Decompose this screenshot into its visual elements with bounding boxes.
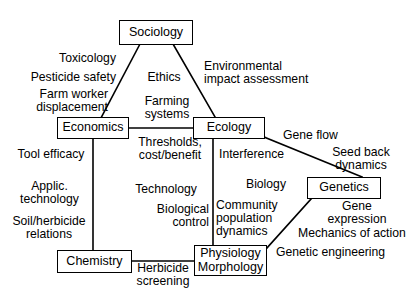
node-chemistry-label: Chemistry — [66, 255, 122, 268]
label-technology-line-1: Technology — [135, 182, 197, 196]
label-genetic-engineering: Genetic engineering — [276, 246, 398, 259]
label-pesticide-safety: Pesticide safety — [14, 71, 116, 84]
node-economics[interactable]: Economics — [57, 117, 129, 139]
label-seed-back-line-1: Seed back — [332, 145, 390, 159]
label-farming-systems-line-2: systems — [145, 107, 190, 121]
label-farm-worker-displacement: Farm worker displacement — [8, 88, 108, 114]
label-community-population-dynamics: Community population dynamics — [216, 199, 288, 239]
label-soil-herbicide-relations: Soil/herbicide relations — [8, 215, 90, 241]
label-tool-efficacy-line-1: Tool efficacy — [18, 147, 85, 161]
label-seed-back-line-2: dynamics — [335, 158, 386, 172]
label-farming-systems-line-1: Farming — [145, 94, 190, 108]
label-biological-control-line-2: control — [172, 215, 209, 229]
label-biology: Biology — [240, 178, 292, 191]
label-community-line-2: population — [216, 211, 272, 225]
label-applic-technology-line-2: technology — [20, 192, 79, 206]
label-environmental-impact-assessment: Environmental impact assessment — [204, 60, 334, 86]
node-sociology-label: Sociology — [129, 26, 183, 39]
label-gene-flow: Gene flow — [283, 129, 345, 142]
node-genetics[interactable]: Genetics — [307, 177, 381, 199]
label-gene-expression-line-2: expression — [328, 212, 387, 226]
node-genetics-label: Genetics — [319, 181, 368, 194]
label-thresholds-cost-benefit: Thresholds, cost/benefit — [131, 136, 209, 162]
label-environmental-impact-line-1: Environmental — [204, 59, 282, 73]
label-community-line-1: Community — [216, 198, 278, 212]
label-ethics: Ethics — [139, 71, 189, 84]
label-ethics-line-1: Ethics — [147, 70, 180, 84]
label-applic-technology-line-1: Applic. — [31, 179, 68, 193]
label-herbicide-screening: Herbicide screening — [132, 262, 194, 288]
node-chemistry[interactable]: Chemistry — [57, 250, 132, 273]
label-mechanics-of-action: Mechanics of action — [298, 227, 416, 240]
label-technology: Technology — [130, 183, 202, 196]
node-morphology-label: Morphology — [198, 261, 263, 274]
label-toxicology: Toxicology — [35, 52, 116, 65]
node-ecology-label: Ecology — [207, 121, 251, 134]
label-herbicide-screening-line-2: screening — [137, 274, 190, 288]
label-thresholds-line-1: Thresholds, — [138, 135, 202, 149]
label-gene-flow-line-1: Gene flow — [283, 128, 338, 142]
label-community-line-3: dynamics — [216, 224, 267, 238]
label-biological-control: Biological control — [150, 203, 209, 229]
label-farming-systems: Farming systems — [138, 95, 196, 121]
label-interference: Interference — [219, 148, 291, 161]
label-biology-line-1: Biology — [246, 177, 286, 191]
node-physiology-morphology[interactable]: Physiology Morphology — [194, 245, 267, 276]
label-tool-efficacy: Tool efficacy — [13, 148, 89, 161]
label-soil-herbicide-line-2: relations — [26, 227, 72, 241]
node-sociology[interactable]: Sociology — [119, 20, 193, 45]
label-gene-expression-line-1: Gene — [342, 199, 372, 213]
label-interference-line-1: Interference — [219, 147, 284, 161]
node-economics-label: Economics — [62, 121, 123, 134]
label-mechanics-of-action-line-1: Mechanics of action — [298, 226, 406, 240]
label-toxicology-line-1: Toxicology — [59, 51, 116, 65]
label-environmental-impact-line-2: impact assessment — [204, 72, 308, 86]
label-pesticide-safety-line-1: Pesticide safety — [31, 70, 116, 84]
label-seed-back-dynamics: Seed back dynamics — [330, 146, 392, 172]
node-physiology-label: Physiology — [200, 247, 260, 260]
label-gene-expression: Gene expression — [320, 200, 394, 226]
concept-map-diagram: Sociology Economics Ecology Genetics Che… — [0, 0, 419, 297]
label-herbicide-screening-line-1: Herbicide — [137, 261, 188, 275]
label-soil-herbicide-line-1: Soil/herbicide — [12, 214, 85, 228]
label-thresholds-line-2: cost/benefit — [139, 148, 201, 162]
label-biological-control-line-1: Biological — [157, 202, 209, 216]
label-farm-worker-line-2: displacement — [36, 100, 108, 114]
label-genetic-engineering-line-1: Genetic engineering — [276, 245, 385, 259]
label-farm-worker-line-1: Farm worker — [40, 87, 108, 101]
label-applic-technology: Applic. technology — [10, 180, 89, 206]
